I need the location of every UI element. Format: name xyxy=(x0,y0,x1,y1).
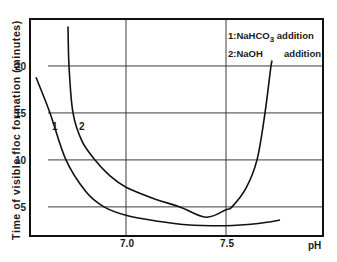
legend-entry-1: 1:NaHCO3 addition xyxy=(228,30,314,44)
x-axis-label: pH xyxy=(308,240,321,251)
y-tick-5: 5 xyxy=(4,202,26,213)
y-tick-20: 20 xyxy=(4,61,26,72)
y-tick-10: 10 xyxy=(4,155,26,166)
x-tick-7-0: 7.0 xyxy=(120,238,134,249)
legend-2-text: 2:NaOH xyxy=(228,48,263,59)
legend-1-text: 1:NaHCO xyxy=(228,30,270,41)
curve-2-label: 2 xyxy=(79,121,85,132)
curve-1-label: 1 xyxy=(52,121,58,132)
legend-1-suffix: addition xyxy=(274,30,314,41)
y-tick-15: 15 xyxy=(4,108,26,119)
x-tick-7-5: 7.5 xyxy=(220,238,234,249)
legend-2-suffix: addition xyxy=(284,48,321,59)
legend-entry-2: 2:NaOH addition xyxy=(228,48,321,59)
curve-1 xyxy=(36,77,280,226)
